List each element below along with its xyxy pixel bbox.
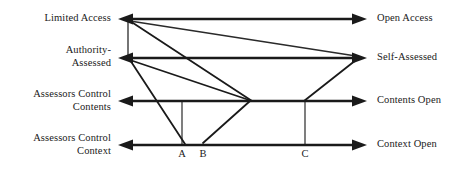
diagonal-limited-to-self <box>130 21 356 56</box>
axis-2-right-arrowhead <box>352 53 367 64</box>
axis-3-left-arrowhead <box>118 96 133 107</box>
axis-1-right-arrowhead <box>352 14 367 25</box>
axis-1-right-label: Open Access <box>377 12 462 25</box>
axis-1-left-arrowhead <box>118 14 133 25</box>
diagonal-b-upward <box>203 101 250 143</box>
diagonal-c-to-self <box>304 60 356 101</box>
marker-label-a: A <box>175 148 189 159</box>
axis-4-right-arrowhead <box>352 140 367 151</box>
diagonal-lines <box>130 21 356 144</box>
marker-label-b: B <box>196 148 210 159</box>
marker-label-c: C <box>298 148 312 159</box>
axis-1-left-label: Limited Access <box>8 12 111 25</box>
axis-3-right-label: Contents Open <box>377 94 462 107</box>
axis-2-left-label: Authority- Assessed <box>8 44 111 69</box>
diagonal-authority-to-convergence <box>130 60 252 101</box>
diagram-canvas: Limited Access Authority- Assessed Asses… <box>0 0 462 174</box>
axis-1-group <box>118 14 367 25</box>
axis-2-right-label: Self-Assessed <box>377 51 462 64</box>
axis-4-left-label: Assessors Control Context <box>8 132 111 157</box>
axis-4-right-label: Context Open <box>377 138 462 151</box>
axis-2-group <box>118 53 367 64</box>
axis-2-left-arrowhead <box>118 53 133 64</box>
axis-3-right-arrowhead <box>352 96 367 107</box>
axis-4-group <box>118 140 367 151</box>
axis-4-left-arrowhead <box>118 140 133 151</box>
axis-3-left-label: Assessors Control Contents <box>8 88 111 113</box>
